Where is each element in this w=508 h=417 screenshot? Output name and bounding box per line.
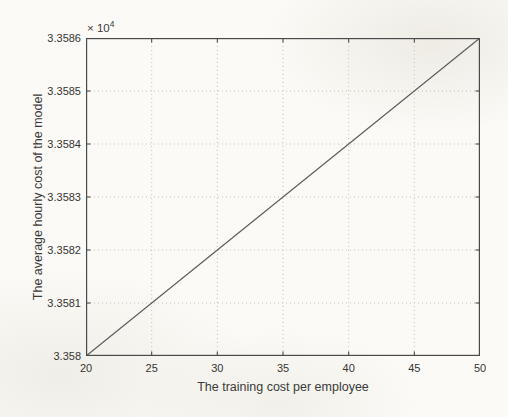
y-axis-multiplier-exponent: 4: [110, 19, 115, 29]
y-axis-multiplier-base: × 10: [87, 22, 110, 34]
y-tick-label: 3.3586: [0, 31, 81, 45]
data-line-linear-cost-line: [86, 38, 480, 356]
y-tick-label: 3.3585: [0, 84, 81, 98]
x-tick-label: 35: [261, 361, 305, 375]
figure-canvas: × 104 The average hourly cost of the mod…: [0, 0, 508, 417]
x-tick-label: 45: [392, 361, 436, 375]
y-tick-label: 3.3582: [0, 243, 81, 257]
y-tick-label: 3.3584: [0, 137, 81, 151]
x-tick-label: 25: [130, 361, 174, 375]
x-tick-label: 40: [327, 361, 371, 375]
plot-area: [86, 38, 480, 356]
chart-svg: [86, 38, 480, 356]
y-tick-label: 3.3581: [0, 296, 81, 310]
x-tick-label: 50: [458, 361, 502, 375]
x-tick-label: 20: [64, 361, 108, 375]
x-tick-label: 30: [195, 361, 239, 375]
x-axis-label: The training cost per employee: [86, 380, 480, 394]
y-tick-label: 3.3583: [0, 190, 81, 204]
y-axis-multiplier: × 104: [87, 19, 114, 34]
